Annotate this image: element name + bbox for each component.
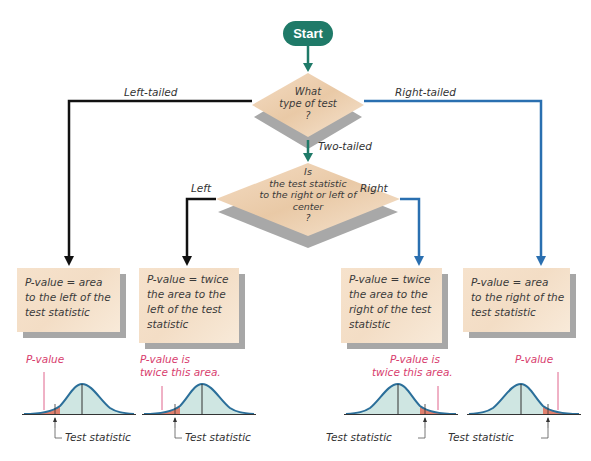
box-line: the area to the [147,287,231,302]
curve-right-tailed [467,372,581,438]
decision2-line: the test statistic [228,178,388,190]
box-line: test statistic [25,305,112,320]
label-left: Left [191,182,211,194]
label-left-tailed: Left-tailed [124,86,177,98]
curve-left-tailed [22,372,136,438]
box-line: P-value = area [25,275,112,290]
start-terminator: Start [283,21,333,46]
box-line: P-value = twice [349,272,434,287]
caption-test-statistic-2: Test statistic [185,431,251,443]
path-left [182,199,216,266]
caption-test-statistic-4: Test statistic [448,431,514,443]
decision2-line: Is [228,166,388,178]
decision1-line: type of test [258,98,358,110]
decision2-line: ? [228,212,388,224]
decision2-line: to the right or left of [228,189,388,201]
label-two-tailed: Two-tailed [318,140,372,152]
result-box-two-tailed-right: P-value = twice the area to the right of… [341,268,442,343]
caption-test-statistic-1: Test statistic [65,431,131,443]
annotation-pvalue-left: P-value [26,353,64,365]
annotation-pvalue-twice-left: P-value is twice this area. [140,353,221,379]
flowchart-canvas [0,0,591,461]
curve-two-tailed-left [142,384,256,438]
caption-test-statistic-3: Test statistic [326,431,392,443]
path-right-tailed [364,101,546,266]
box-line: to the left of the [25,290,112,305]
box-line: right of the test [349,302,434,317]
annotation-pvalue-right: P-value [515,353,553,365]
box-line: to the right of the [471,290,562,305]
annotation-line: twice this area. [140,366,221,379]
path-right [400,199,424,266]
curve-two-tailed-right [344,384,458,438]
annotation-pvalue-twice-right: P-value is twice this area. [372,353,453,379]
path-left-tailed [64,101,252,266]
box-line: statistic [147,317,231,332]
annotation-line: twice this area. [372,366,453,379]
box-line: left of the test [147,302,231,317]
box-line: P-value = area [471,275,562,290]
decision2-line: center [228,201,388,213]
box-line: statistic [349,317,434,332]
box-line: the area to the [349,287,434,302]
start-label: Start [293,26,323,41]
result-box-right-tailed: P-value = area to the right of the test … [463,268,570,332]
decision1-line: ? [258,110,358,122]
decision-direction-text: Is the test statistic to the right or le… [228,166,388,224]
decision1-line: What [258,86,358,98]
result-box-left-tailed: P-value = area to the left of the test s… [17,268,120,332]
annotation-line: P-value is [372,353,453,366]
result-box-two-tailed-left: P-value = twice the area to the left of … [139,268,239,343]
annotation-line: P-value is [140,353,221,366]
connector-start-to-decision [303,46,313,72]
decision-test-type-text: What type of test ? [258,86,358,122]
box-line: test statistic [471,305,562,320]
box-line: P-value = twice [147,272,231,287]
label-right-tailed: Right-tailed [395,86,456,98]
